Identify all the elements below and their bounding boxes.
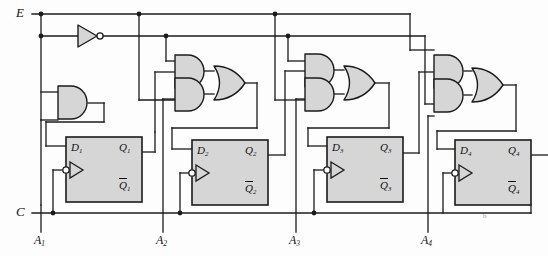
label-d2: D2 xyxy=(197,144,208,157)
label-qbar3: Q3 xyxy=(380,179,391,192)
label-clock-input: C xyxy=(16,204,25,220)
label-a3: A3 xyxy=(289,233,300,248)
clock-bubble-icon-2 xyxy=(189,170,195,176)
junction-clock-ff1 xyxy=(51,211,56,216)
circuit-diagram: E C A1 A2 A3 A4 D1 Q1 Q1 D2 Q2 Q2 D3 Q3 … xyxy=(0,0,548,256)
junction-e-tap xyxy=(39,12,44,17)
label-a4: A4 xyxy=(421,233,432,248)
junction-e-stage3 xyxy=(273,12,278,17)
clock-bubble-icon-1 xyxy=(63,167,69,173)
label-q2: Q2 xyxy=(245,144,256,157)
label-q3: Q3 xyxy=(380,141,391,154)
junction-clock-ff2 xyxy=(178,211,183,216)
clock-bubble-icon-3 xyxy=(324,167,330,173)
junction-e-inverter-in xyxy=(39,34,44,39)
label-q1: Q1 xyxy=(119,141,130,154)
clock-bubble-icon-4 xyxy=(452,170,458,176)
inverter-bubble-icon xyxy=(97,33,103,39)
or-gate-stage2 xyxy=(214,66,245,100)
label-enable-input: E xyxy=(16,5,24,21)
label-a1: A1 xyxy=(34,233,45,248)
or-gate-stage4 xyxy=(472,68,503,102)
label-qbar4: Q4 xyxy=(508,182,519,195)
junction-ne-stage2 xyxy=(164,34,169,39)
junction-e-stage2 xyxy=(137,12,142,17)
and-gate-stage2-lower xyxy=(175,78,204,111)
label-q4: Q4 xyxy=(508,144,519,157)
label-d3: D3 xyxy=(332,141,343,154)
label-a2: A2 xyxy=(156,233,167,248)
junction-clock-ff3 xyxy=(312,211,317,216)
label-d1: D1 xyxy=(71,141,82,154)
stray-mark: b xyxy=(483,212,487,220)
or-gate-stage3 xyxy=(344,66,375,100)
label-d4: D4 xyxy=(460,144,471,157)
and-gate-stage4-lower xyxy=(434,79,463,112)
schematic-canvas xyxy=(0,0,548,256)
label-qbar2: Q2 xyxy=(245,182,256,195)
enable-inverter xyxy=(78,25,103,47)
label-qbar1: Q1 xyxy=(119,179,130,192)
and-gate-stage1 xyxy=(58,86,87,119)
junction-ne-stage3 xyxy=(286,34,291,39)
and-gate-stage3-lower xyxy=(305,78,334,111)
